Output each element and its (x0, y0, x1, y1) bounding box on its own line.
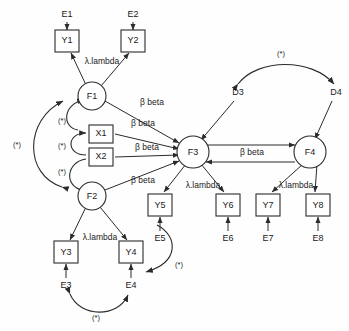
node-label-E7: E7 (262, 233, 273, 243)
edge-f3-y5 (164, 164, 186, 192)
node-label-Y2: Y2 (127, 35, 138, 45)
node-label-E6: E6 (222, 233, 233, 243)
edge-f4-y8 (315, 164, 317, 192)
star-label-f1-f2: (*) (13, 140, 21, 149)
edge-label-lambda-f4: λ.lambda (279, 180, 314, 190)
node-label-Y3: Y3 (60, 247, 71, 257)
edge-f1-y1 (71, 53, 86, 85)
star-label-d3-d4: (*) (277, 49, 285, 58)
node-label-F4: F4 (305, 147, 316, 157)
star-label-e3-e4: (*) (92, 313, 100, 322)
star-labels: (*) (*) (*) (*) (*) (*) (*) (13, 49, 285, 322)
node-label-E3: E3 (60, 280, 71, 290)
edge-label-beta-f3-f4: β beta (240, 147, 264, 157)
node-label-Y5: Y5 (154, 200, 165, 210)
node-label-Y4: Y4 (125, 247, 136, 257)
node-label-Y6: Y6 (222, 200, 233, 210)
node-label-F3: F3 (188, 147, 199, 157)
edge-label-beta-f1-f3: β beta (140, 97, 164, 107)
node-label-F2: F2 (87, 191, 98, 201)
edge-label-beta-f2-f3: β beta (131, 175, 155, 185)
node-label-E2: E2 (127, 9, 138, 19)
node-label-Y8: Y8 (312, 200, 323, 210)
edge-label-lambda-f3: λ.lambda (186, 180, 221, 190)
node-label-D4: D4 (330, 87, 342, 97)
node-label-E5: E5 (154, 233, 165, 243)
curve-e5-e4 (146, 225, 172, 272)
edge-d3-f3 (201, 101, 234, 140)
curve-x1-x2 (71, 133, 86, 155)
edge-label-lambda-f2: λ.lambda (83, 232, 118, 242)
edge-d4-f4 (315, 101, 332, 139)
node-label-Y1: Y1 (61, 35, 72, 45)
node-label-X1: X1 (95, 128, 106, 138)
edge-label-beta-x2-f3: β beta (135, 142, 159, 152)
star-label-x1-x2: (*) (58, 141, 66, 150)
curve-e3-e4 (70, 294, 128, 312)
edge-label-lambda-f1: λ.lambda (85, 56, 120, 66)
node-label-E1: E1 (61, 9, 72, 19)
diagram-canvas: E1 E2 Y1 Y2 F1 X1 X2 F2 F3 F4 D3 D4 Y3 Y… (0, 0, 349, 331)
star-label-f1-x1: (*) (58, 116, 66, 125)
node-label-E4: E4 (125, 280, 136, 290)
star-label-e5-e4: (*) (175, 260, 183, 269)
node-label-D3: D3 (232, 87, 244, 97)
node-label-Y7: Y7 (262, 200, 273, 210)
star-label-x2-f2: (*) (58, 167, 66, 176)
node-label-F1: F1 (87, 91, 98, 101)
sem-path-diagram: E1 E2 Y1 Y2 F1 X1 X2 F2 F3 F4 D3 D4 Y3 Y… (0, 0, 349, 331)
edge-x2-f3 (115, 155, 179, 157)
curve-d3-d4 (238, 65, 334, 85)
edge-label-beta-x1-f3: β beta (131, 118, 155, 128)
node-label-E8: E8 (312, 233, 323, 243)
node-label-X2: X2 (95, 151, 106, 161)
